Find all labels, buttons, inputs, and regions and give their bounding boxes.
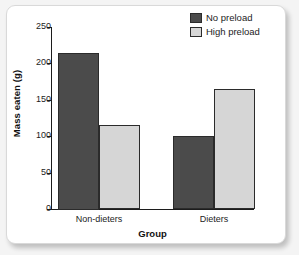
y-axis-line [51,27,52,210]
x-category-label-dieters: Dieters [174,214,254,224]
bar-dieters-high-preload [214,89,255,210]
bar-non-dieters-no-preload [58,53,99,210]
bar-dieters-no-preload [173,136,214,209]
bar-non-dieters-high-preload [99,125,140,209]
light-swatch-icon [190,27,202,37]
y-tick-label-250: 250 [23,22,51,31]
y-tick-label-150: 150 [23,95,51,104]
chart-card: 250 200 150 100 50 0 Mas [6,5,286,244]
y-tick-label-100: 100 [23,131,51,140]
y-tick-label-50: 50 [23,168,51,177]
legend-label-high-preload: High preload [206,26,260,38]
bar-chart-plot-area: 250 200 150 100 50 0 Mas [7,6,287,245]
y-tick-label-200: 200 [23,58,51,67]
y-axis-title: Mass eaten (g) [11,54,22,154]
legend-label-no-preload: No preload [206,12,252,24]
x-category-label-non-dieters: Non-dieters [59,214,139,224]
x-axis-title: Group [51,228,254,239]
y-tick-label-0: 0 [23,204,51,213]
chart-screenshot: 250 200 150 100 50 0 Mas [0,0,299,255]
dark-swatch-icon [190,13,202,23]
